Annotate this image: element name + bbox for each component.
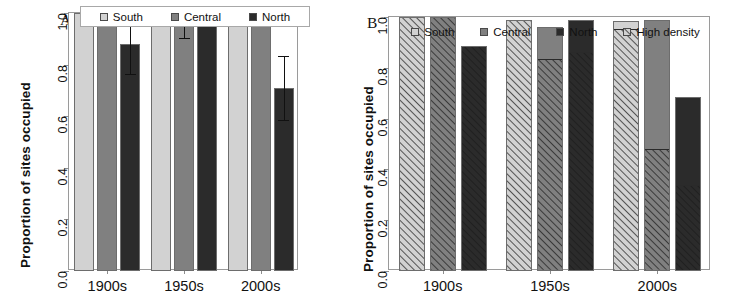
x-axis-tick-label: 1900s — [88, 278, 128, 294]
bar-central-1950s — [537, 27, 563, 271]
panel-b: Proportion of sites occupied B 0.00.20.4… — [366, 0, 732, 303]
x-axis-tick-label: 1900s — [423, 278, 463, 294]
legend-label: South — [113, 11, 143, 23]
y-axis-tick-label: 0.0 — [376, 271, 390, 288]
legend-entry-north: North — [556, 26, 597, 38]
bar-north-1900s — [461, 46, 487, 271]
legend-label: Central — [493, 26, 530, 38]
legend-swatch-north-icon — [249, 13, 257, 21]
segment-high-density — [507, 20, 531, 270]
bar-north-1900s — [120, 44, 140, 271]
legend-entry-high-density: High density — [623, 26, 699, 38]
bar-north-1950s — [568, 20, 594, 271]
legend-swatch-south-icon — [100, 13, 108, 21]
legend-label: High density — [636, 26, 699, 38]
legend-label: Central — [184, 11, 221, 23]
panel-a: Proportion of sites occupied A 0.00.20.4… — [0, 0, 366, 303]
segment-high-density — [676, 185, 700, 270]
y-axis-tick-label: 0.2 — [56, 219, 70, 236]
x-axis-tick-label: 1950s — [530, 278, 570, 294]
figure-root: Proportion of sites occupied A 0.00.20.4… — [0, 0, 732, 303]
segment-high-density — [462, 46, 486, 270]
panel-b-legend: SouthCentralNorthHigh density — [408, 23, 703, 41]
panel-b-plot-area: 0.00.20.40.60.81.01900s1950s2000s — [388, 16, 710, 270]
error-bar-cap-lower — [179, 38, 190, 39]
bar-north-2000s — [675, 97, 701, 271]
y-axis-tick-label: 1.0 — [56, 13, 70, 30]
x-axis-tick-label: 2000s — [638, 278, 678, 294]
panel-a-y-axis-title: Proportion of sites occupied — [18, 82, 33, 268]
panel-a-legend: SouthCentralNorth — [80, 6, 310, 27]
bar-central-1950s — [174, 23, 194, 271]
y-axis-tick-label: 0.4 — [56, 168, 70, 185]
legend-entry-central: Central — [480, 26, 530, 38]
x-axis-tick-label: 2000s — [241, 278, 281, 294]
panel-a-plot-area: 0.00.20.40.60.81.01900s1950s2000s — [68, 12, 298, 270]
legend-swatch-south-icon — [411, 28, 419, 36]
y-axis-tick-label: 0.6 — [376, 119, 390, 136]
bar-south-2000s — [613, 21, 639, 271]
bar-north-1950s — [197, 16, 217, 271]
legend-swatch-north-icon — [556, 28, 564, 36]
segment-high-density — [569, 52, 593, 270]
y-axis-tick-label: 0.8 — [376, 68, 390, 85]
legend-swatch-central-icon — [480, 28, 488, 36]
legend-entry-south: South — [100, 11, 143, 23]
bar-central-2000s — [644, 20, 670, 271]
bar-south-2000s — [228, 13, 248, 271]
y-axis-tick-label: 0.4 — [376, 169, 390, 186]
legend-label: South — [424, 26, 454, 38]
bar-central-1900s — [97, 13, 117, 271]
segment-high-density — [645, 149, 669, 270]
segment-high-density — [538, 59, 562, 270]
y-axis-tick-label: 0.6 — [56, 116, 70, 133]
legend-swatch-central-icon — [171, 13, 179, 21]
y-axis-tick-label: 0.8 — [56, 65, 70, 82]
legend-label: North — [262, 11, 290, 23]
legend-entry-south: South — [411, 26, 454, 38]
y-axis-tick-label: 0.2 — [376, 220, 390, 237]
legend-swatch-hatched-icon — [623, 28, 631, 36]
bar-south-1900s — [74, 13, 94, 271]
error-bar-cap-lower — [278, 120, 289, 121]
bar-central-1900s — [430, 17, 456, 271]
segment-high-density — [431, 17, 455, 270]
y-axis-tick-label: 0.0 — [56, 271, 70, 288]
legend-entry-central: Central — [171, 11, 221, 23]
panel-b-y-axis-title: Proportion of sites occupied — [361, 86, 376, 272]
y-axis-tick-label: 1.0 — [376, 17, 390, 34]
segment-high-density — [400, 17, 424, 270]
segment-high-density — [614, 29, 638, 270]
error-bar-line — [284, 56, 285, 121]
bar-south-1900s — [399, 17, 425, 271]
x-axis-tick-label: 1950s — [164, 278, 204, 294]
legend-label: North — [569, 26, 597, 38]
bar-south-1950s — [506, 20, 532, 271]
error-bar-cap-upper — [278, 56, 289, 57]
legend-entry-north: North — [249, 11, 290, 23]
bar-central-2000s — [251, 13, 271, 271]
bar-south-1950s — [151, 13, 171, 271]
error-bar-cap-lower — [125, 74, 136, 75]
